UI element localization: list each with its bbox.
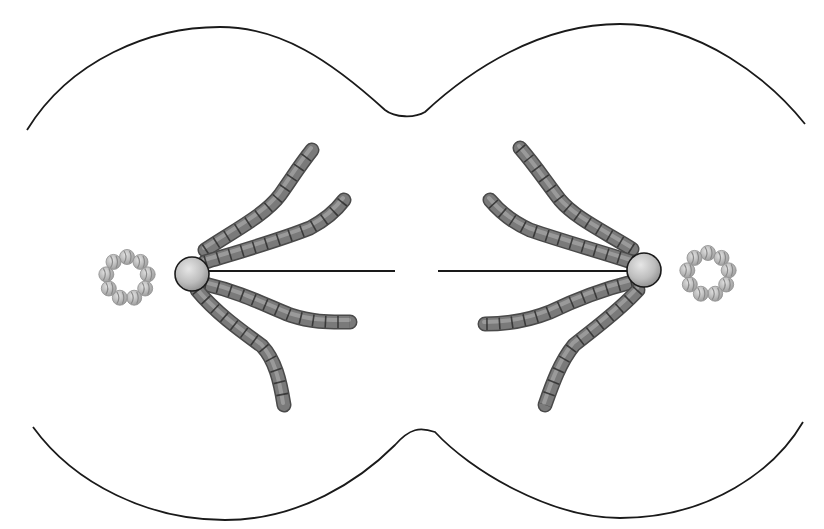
centriole-bead bbox=[140, 267, 155, 282]
centriole-bead bbox=[682, 277, 697, 292]
centriole-bead bbox=[127, 290, 142, 305]
centriole-ring-right bbox=[680, 246, 736, 302]
centriole-bead bbox=[687, 250, 702, 265]
centriole-bead bbox=[101, 281, 116, 296]
centriole-ring-left bbox=[99, 250, 155, 306]
centrosome-left bbox=[175, 257, 209, 291]
centrosome-right bbox=[627, 253, 661, 287]
centriole-bead bbox=[120, 250, 135, 265]
cell-outline-upper bbox=[27, 24, 805, 130]
cell-division-illustration bbox=[0, 0, 824, 529]
mitosis-diagram bbox=[0, 0, 824, 529]
centriole-bead bbox=[708, 286, 723, 301]
centriole-bead bbox=[721, 263, 736, 278]
cell-outline-lower bbox=[33, 422, 803, 520]
chromosomes bbox=[196, 146, 638, 405]
centriole-bead bbox=[106, 254, 121, 269]
centriole-bead bbox=[701, 246, 716, 261]
